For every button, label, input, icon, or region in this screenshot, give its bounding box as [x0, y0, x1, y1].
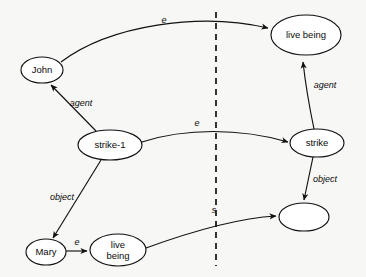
edge-label-s: s	[212, 205, 217, 215]
edge-path	[303, 62, 314, 129]
edge-path	[142, 132, 288, 143]
node-empty-type[interactable]	[279, 203, 329, 231]
diagram-canvas: live being (top right), long upward curv…	[0, 0, 366, 277]
edge-livebeing-s-empty: s	[146, 205, 276, 248]
node-strike-type[interactable]: strike	[290, 129, 344, 157]
edge-label-object-right: object	[313, 174, 338, 184]
edge-label-object-left: object	[50, 192, 75, 202]
node-live-being-instance[interactable]: live being	[90, 234, 146, 266]
node-shape[interactable]	[279, 203, 329, 231]
edge-label-agent-left: agent	[70, 98, 93, 108]
edge-label-e-john: e	[161, 15, 166, 25]
edge-strike1-e-strike: e	[142, 118, 288, 142]
node-label-live-being-line1: live	[111, 239, 125, 250]
node-john[interactable]: John	[21, 57, 63, 83]
node-label-john: John	[32, 64, 53, 75]
edge-path	[304, 157, 313, 200]
node-mary[interactable]: Mary	[26, 239, 66, 265]
semantic-network-diagram: live being (top right), long upward curv…	[0, 0, 366, 277]
edge-label-e-mary: e	[74, 237, 79, 247]
edge-label-e-strike1: e	[194, 118, 199, 128]
node-label-live-being-line2: being	[106, 250, 129, 261]
node-label-strike-type: strike	[306, 137, 329, 148]
edge-strike-agent-livebeing: agent	[303, 62, 337, 129]
node-live-being-type[interactable]: live being	[271, 15, 341, 55]
edge-mary-e-livebeing: e	[66, 237, 87, 251]
node-label-live-being-type: live being	[286, 29, 326, 40]
edge-label-agent-right: agent	[314, 80, 337, 90]
edge-strike1-agent-john: agent	[51, 85, 96, 131]
node-strike-1[interactable]: strike-1	[78, 130, 142, 160]
edge-john-e-livebeing: e	[61, 15, 268, 62]
edge-strike-object-empty: object	[304, 157, 338, 200]
node-label-mary: Mary	[35, 246, 56, 257]
edge-path	[146, 216, 276, 248]
node-label-strike-1: strike-1	[94, 139, 125, 150]
edge-strike1-object-mary: object	[50, 160, 101, 238]
edge-path	[61, 21, 268, 62]
